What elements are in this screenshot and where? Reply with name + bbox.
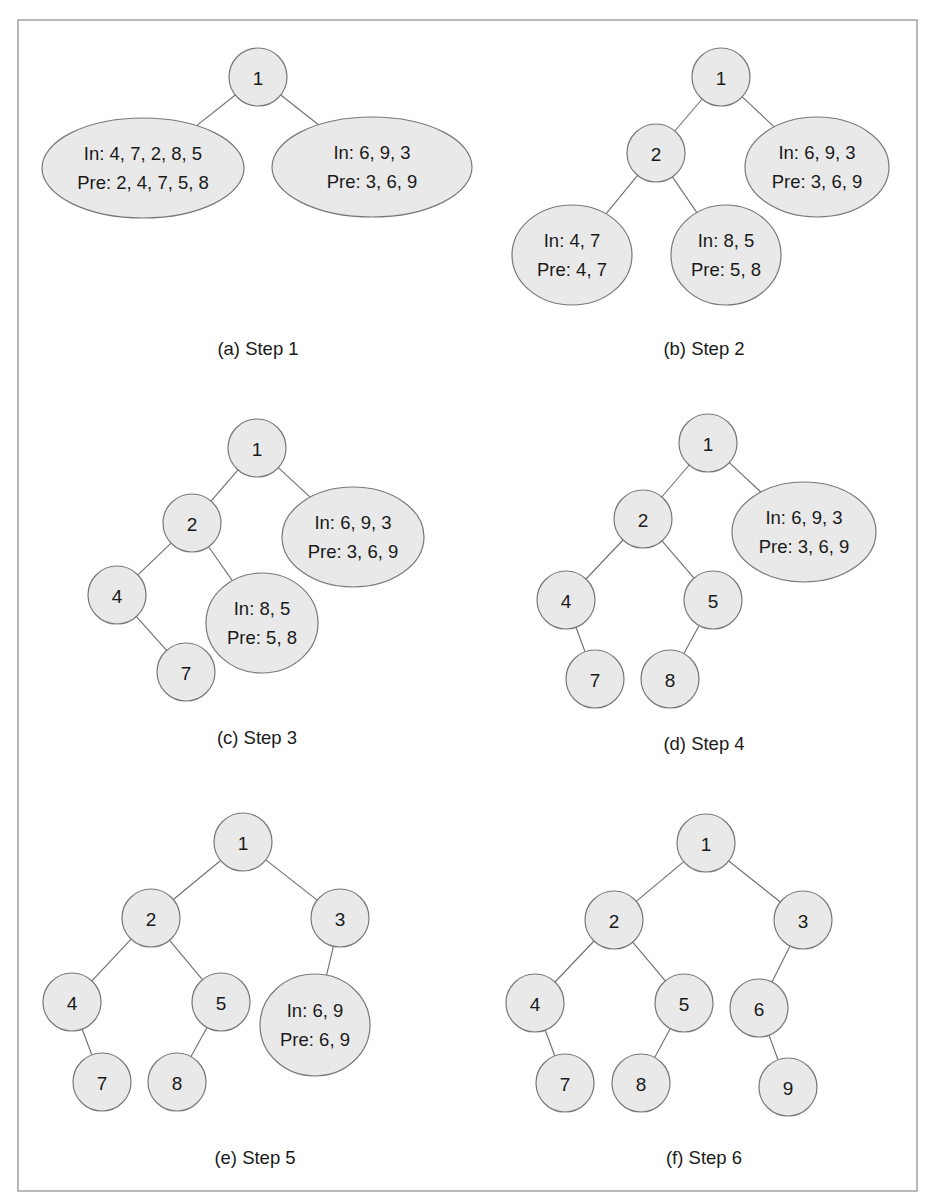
- node-label: 2: [651, 144, 662, 165]
- subtree-pending-node: In: 8, 5Pre: 5, 8: [206, 573, 318, 673]
- panel-f: 123456789(f) Step 6: [506, 814, 832, 1168]
- tree-construction-figure: 1In: 4, 7, 2, 8, 5Pre: 2, 4, 7, 5, 8In: …: [0, 0, 928, 1198]
- tree-node-1: 1: [214, 813, 272, 871]
- tree-node-1: 1: [679, 414, 737, 472]
- tree-node-1: 1: [229, 48, 287, 106]
- edge-n2-n4: [92, 939, 131, 981]
- panels-group: 1In: 4, 7, 2, 8, 5Pre: 2, 4, 7, 5, 8In: …: [42, 48, 889, 1168]
- panel-d: 12In: 6, 9, 3Pre: 3, 6, 94578(d) Step 4: [537, 414, 876, 754]
- panel-caption: (f) Step 6: [666, 1147, 742, 1168]
- tree-node-5: 5: [684, 571, 742, 629]
- panel-caption: (d) Step 4: [663, 733, 744, 754]
- edge-n4-n7: [545, 1030, 555, 1056]
- node-label: 7: [590, 670, 601, 691]
- tree-node-2: 2: [585, 891, 643, 949]
- preorder-sequence: Pre: 3, 6, 9: [759, 536, 850, 557]
- subtree-pending-node: In: 6, 9, 3Pre: 3, 6, 9: [272, 117, 472, 217]
- node-label: 7: [97, 1073, 108, 1094]
- edge-n1-n2: [173, 861, 220, 900]
- tree-node-3: 3: [311, 889, 369, 947]
- node-label: 2: [638, 510, 649, 531]
- panel-b: 12In: 6, 9, 3Pre: 3, 6, 9In: 4, 7Pre: 4,…: [512, 48, 889, 359]
- edge-n2-n4: [586, 540, 623, 579]
- panel-caption: (a) Step 1: [217, 338, 298, 359]
- inorder-sequence: In: 6, 9, 3: [314, 512, 391, 533]
- tree-node-7: 7: [536, 1054, 594, 1112]
- node-label: 7: [560, 1074, 571, 1095]
- inorder-sequence: In: 6, 9: [287, 1000, 344, 1021]
- inorder-sequence: In: 4, 7: [544, 230, 601, 251]
- panel-c: 12In: 6, 9, 3Pre: 3, 6, 94In: 8, 5Pre: 5…: [88, 419, 424, 748]
- preorder-sequence: Pre: 3, 6, 9: [327, 171, 418, 192]
- edge-n4-n7: [82, 1029, 92, 1055]
- tree-node-4: 4: [537, 571, 595, 629]
- subtree-ellipse: [206, 573, 318, 673]
- tree-node-4: 4: [88, 566, 146, 624]
- panel-caption: (b) Step 2: [663, 338, 744, 359]
- subtree-pending-node: In: 6, 9, 3Pre: 3, 6, 9: [732, 482, 876, 582]
- inorder-sequence: In: 6, 9, 3: [333, 142, 410, 163]
- edge-n1-left: [197, 95, 236, 126]
- edge-n1-n3: [266, 860, 317, 900]
- panel-caption: (c) Step 3: [217, 727, 297, 748]
- inorder-sequence: In: 4, 7, 2, 8, 5: [84, 143, 202, 164]
- inorder-sequence: In: 6, 9, 3: [778, 142, 855, 163]
- node-label: 1: [238, 833, 249, 854]
- subtree-pending-node: In: 8, 5Pre: 5, 8: [671, 205, 781, 305]
- node-label: 4: [530, 994, 541, 1015]
- panel-caption: (e) Step 5: [214, 1147, 295, 1168]
- subtree-ellipse: [272, 117, 472, 217]
- node-label: 2: [609, 911, 620, 932]
- edge-n1-n2: [636, 862, 684, 902]
- edge-n4-n7: [136, 617, 166, 651]
- node-label: 1: [252, 439, 263, 460]
- subtree-ellipse: [42, 118, 244, 218]
- edge-n1-right: [729, 463, 761, 492]
- node-label: 9: [783, 1078, 794, 1099]
- subtree-ellipse: [745, 117, 889, 217]
- edge-n6-n9: [769, 1035, 778, 1060]
- subtree-pending-node: In: 6, 9Pre: 6, 9: [260, 974, 370, 1076]
- node-label: 5: [679, 994, 690, 1015]
- edge-n2-ll: [606, 175, 638, 213]
- tree-node-1: 1: [228, 419, 286, 477]
- inorder-sequence: In: 8, 5: [698, 230, 755, 251]
- edge-n5-n8: [684, 626, 699, 654]
- tree-node-7: 7: [157, 643, 215, 701]
- edge-n1-n2: [211, 470, 238, 501]
- tree-node-2: 2: [122, 889, 180, 947]
- preorder-sequence: Pre: 5, 8: [227, 627, 297, 648]
- edge-n2-lr: [209, 547, 233, 581]
- tree-node-8: 8: [641, 650, 699, 708]
- preorder-sequence: Pre: 4, 7: [537, 259, 607, 280]
- node-label: 1: [703, 434, 714, 455]
- node-label: 2: [187, 514, 198, 535]
- node-label: 1: [253, 68, 264, 89]
- subtree-pending-node: In: 6, 9, 3Pre: 3, 6, 9: [745, 117, 889, 217]
- node-label: 8: [172, 1073, 183, 1094]
- panel-e: 12345In: 6, 9Pre: 6, 978(e) Step 5: [43, 813, 370, 1168]
- edge-n5-n8: [655, 1029, 671, 1058]
- edge-n2-lr: [672, 177, 697, 213]
- tree-node-4: 4: [506, 974, 564, 1032]
- edge-n2-n4: [555, 941, 594, 982]
- node-label: 4: [67, 993, 78, 1014]
- tree-node-8: 8: [148, 1053, 206, 1111]
- edge-n1-right: [742, 97, 774, 127]
- preorder-sequence: Pre: 2, 4, 7, 5, 8: [77, 172, 209, 193]
- tree-node-6: 6: [730, 979, 788, 1037]
- inorder-sequence: In: 6, 9, 3: [765, 507, 842, 528]
- edge-n3-rl: [327, 946, 334, 975]
- node-label: 6: [754, 999, 765, 1020]
- edge-n2-n4: [138, 543, 171, 575]
- edge-n3-n6: [772, 946, 790, 982]
- tree-node-2: 2: [614, 490, 672, 548]
- node-label: 8: [665, 670, 676, 691]
- tree-node-7: 7: [73, 1053, 131, 1111]
- edge-n5-n8: [191, 1027, 207, 1056]
- tree-node-1: 1: [677, 814, 735, 872]
- tree-node-2: 2: [627, 124, 685, 182]
- edge-n1-n3: [729, 861, 781, 902]
- tree-node-5: 5: [655, 974, 713, 1032]
- edge-n2-n5: [633, 942, 666, 981]
